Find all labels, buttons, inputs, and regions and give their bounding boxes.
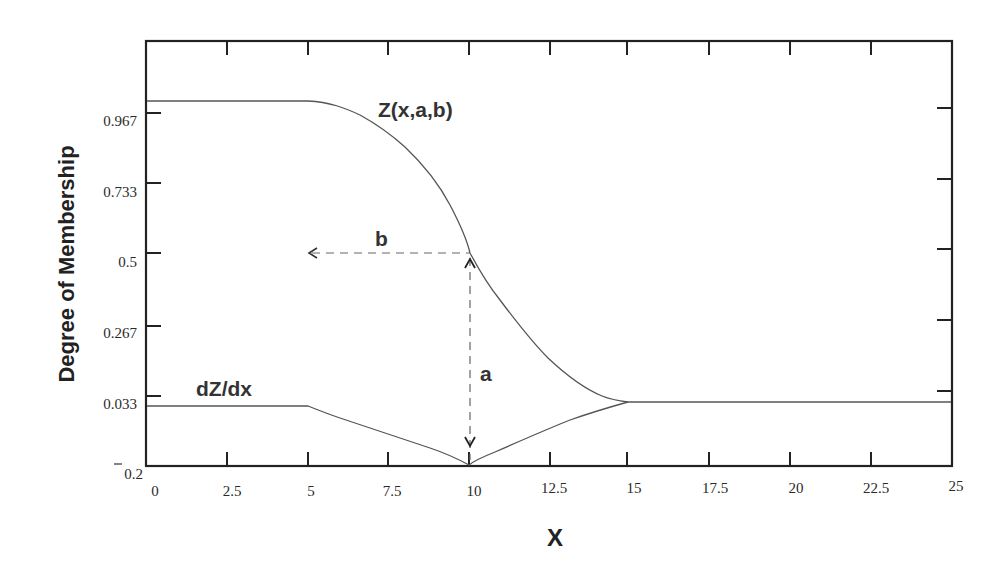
x-axis-title: X — [547, 524, 563, 551]
x-tick-label: 10 — [467, 483, 482, 499]
z-curve-label: Z(x,a,b) — [378, 98, 453, 121]
y-ticks — [146, 108, 952, 396]
x-tick-label: 15 — [627, 480, 642, 496]
x-tick-label: 17.5 — [702, 480, 728, 496]
x-tick-label: 2.5 — [223, 483, 242, 499]
y-tick-label: 0.967 — [103, 113, 137, 129]
x-tick-label: 0 — [151, 483, 159, 499]
membership-chart: 0 2.5 5 7.5 10 12.5 15 17.5 20 22.5 25 0… — [0, 0, 1004, 581]
x-tick-labels: 0 2.5 5 7.5 10 12.5 15 17.5 20 22.5 25 — [151, 478, 963, 499]
x-tick-label: 22.5 — [863, 480, 889, 496]
b-label: b — [375, 227, 388, 250]
a-label: a — [480, 362, 492, 385]
y-tick-label: 0.267 — [103, 325, 137, 341]
x-tick-label: 5 — [307, 483, 315, 499]
x-tick-label: 25 — [949, 478, 964, 494]
z-curve — [147, 101, 951, 402]
y-tick-label: 0.033 — [103, 396, 137, 412]
x-tick-label: 12.5 — [541, 480, 567, 496]
x-tick-label: 7.5 — [383, 483, 402, 499]
y-tick-label: 0.733 — [103, 184, 137, 200]
y-tick-label: 0.5 — [118, 254, 137, 270]
dz-curve-label: dZ/dx — [196, 377, 252, 400]
y-tick-label: 0.2 — [124, 466, 143, 482]
y-tick-labels: 0.967 0.733 0.5 0.267 0.033 0.2 — [103, 113, 143, 482]
y-axis-title: Degree of Membership — [54, 145, 79, 382]
x-tick-label: 20 — [789, 480, 804, 496]
